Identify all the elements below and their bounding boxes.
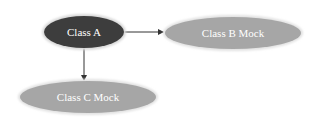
node-class-b-mock-label: Class B Mock	[202, 27, 265, 39]
node-class-c-mock-label: Class C Mock	[57, 91, 120, 103]
diagram-canvas: Class A Class B Mock Class C Mock	[0, 0, 316, 124]
node-class-a-label: Class A	[67, 26, 101, 38]
node-class-b-mock[interactable]: Class B Mock	[163, 15, 303, 51]
node-class-a[interactable]: Class A	[42, 14, 126, 50]
node-class-c-mock[interactable]: Class C Mock	[18, 79, 158, 115]
